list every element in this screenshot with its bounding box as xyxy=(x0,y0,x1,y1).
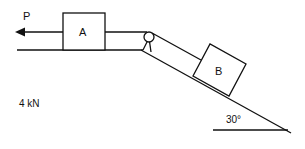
block-a-label: A xyxy=(79,27,86,38)
angle-label: 30° xyxy=(226,115,241,125)
weight-label: 4 kN xyxy=(19,99,40,109)
force-p-label: P xyxy=(23,11,30,22)
rope-incline xyxy=(152,33,201,60)
pulley xyxy=(144,32,154,42)
block-b-label: B xyxy=(215,66,222,77)
arrow-head-icon xyxy=(15,28,25,37)
diagram-canvas xyxy=(0,0,305,149)
